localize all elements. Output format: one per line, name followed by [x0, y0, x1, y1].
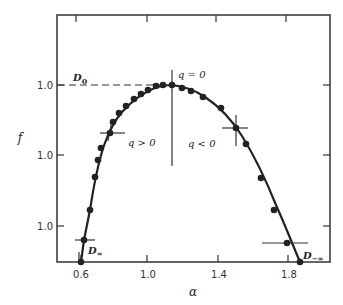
y-tick-label: 1.0	[37, 80, 53, 91]
x-ticks-top	[76, 15, 286, 22]
y-tick-label: 1.0	[37, 221, 53, 232]
annotation-d-inf: D∞	[87, 245, 103, 258]
annotation-q-zero: q = 0	[178, 69, 206, 80]
x-axis-title: α	[189, 285, 197, 299]
y-tick-label: 1.0	[37, 150, 53, 161]
annotation-q-positive: q > 0	[128, 137, 156, 148]
x-tick-label: 1.8	[281, 269, 297, 280]
y-ticks-right	[323, 85, 330, 226]
x-tick-label: 1.4	[211, 269, 227, 280]
y-ticks-left	[57, 85, 64, 226]
x-ticks-bottom	[81, 255, 288, 262]
x-tick-label: 1.0	[140, 269, 156, 280]
annotation-d0: D0	[72, 72, 88, 86]
x-tick-label: 0.6	[73, 269, 89, 280]
data-points	[78, 82, 304, 266]
y-axis-title: f	[17, 131, 25, 145]
fitted-curve	[81, 85, 300, 262]
chart: 0.6 1.0 1.4 1.8 1.0 1.0 1.0 α f	[0, 0, 343, 305]
annotation-d-neg-inf: D−∞	[302, 250, 324, 263]
annotation-q-negative: q < 0	[188, 138, 216, 149]
